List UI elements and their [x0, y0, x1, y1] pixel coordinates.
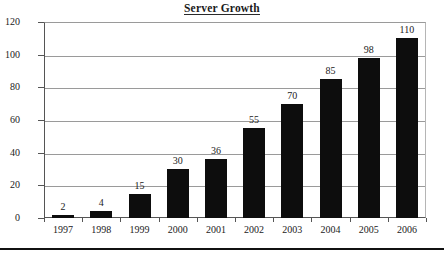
x-axis-tick-mark: [159, 218, 160, 222]
y-axis-tick-mark: [38, 55, 44, 56]
x-axis-tick-mark: [388, 218, 389, 222]
y-axis-tick-label: 100: [0, 50, 20, 60]
x-axis-tick-label-2006: 2006: [385, 224, 429, 235]
y-axis-tick-label: 0: [0, 213, 20, 223]
bar-value-label-2001: 36: [194, 146, 238, 156]
bar-2003: [281, 104, 303, 218]
x-axis-tick-mark: [82, 218, 83, 222]
gridline: [45, 56, 425, 57]
x-axis-tick-mark: [311, 218, 312, 222]
x-axis-tick-mark: [197, 218, 198, 222]
bar-1998: [90, 211, 112, 218]
y-axis-tick-label: 60: [0, 115, 20, 125]
chart-title: Server Growth: [0, 2, 444, 14]
bar-value-label-2005: 98: [347, 45, 391, 55]
x-axis-tick-mark: [350, 218, 351, 222]
bar-2006: [396, 38, 418, 218]
bar-2005: [358, 58, 380, 218]
bar-1999: [129, 194, 151, 219]
y-axis-tick-label: 80: [0, 82, 20, 92]
bar-value-label-2000: 30: [156, 156, 200, 166]
y-axis-tick-label: 20: [0, 180, 20, 190]
bar-2002: [243, 128, 265, 218]
bar-2004: [320, 79, 342, 218]
y-axis-tick-label: 120: [0, 17, 20, 27]
bar-value-label-2002: 55: [232, 115, 276, 125]
bar-2000: [167, 169, 189, 218]
y-axis-tick-mark: [38, 22, 44, 23]
chart-title-text: Server Growth: [184, 2, 260, 15]
y-axis-tick-mark: [38, 153, 44, 154]
y-axis-tick-mark: [38, 185, 44, 186]
y-axis-tick-label: 40: [0, 148, 20, 158]
x-axis-tick-mark: [44, 218, 45, 222]
x-axis-tick-mark: [120, 218, 121, 222]
bar-chart-figure: Server Growth 02040608010012021997419981…: [0, 0, 444, 248]
y-axis-tick-mark: [38, 87, 44, 88]
bar-value-label-2006: 110: [385, 25, 429, 35]
bar-value-label-2004: 85: [309, 66, 353, 76]
bar-value-label-2003: 70: [270, 91, 314, 101]
x-axis-tick-mark: [426, 218, 427, 222]
bar-2001: [205, 159, 227, 218]
bar-1997: [52, 215, 74, 218]
x-axis-tick-mark: [273, 218, 274, 222]
bar-value-label-1998: 4: [79, 198, 123, 208]
bar-value-label-1999: 15: [118, 181, 162, 191]
x-axis-tick-mark: [235, 218, 236, 222]
bottom-divider-rule: [0, 248, 444, 250]
y-axis-tick-mark: [38, 120, 44, 121]
